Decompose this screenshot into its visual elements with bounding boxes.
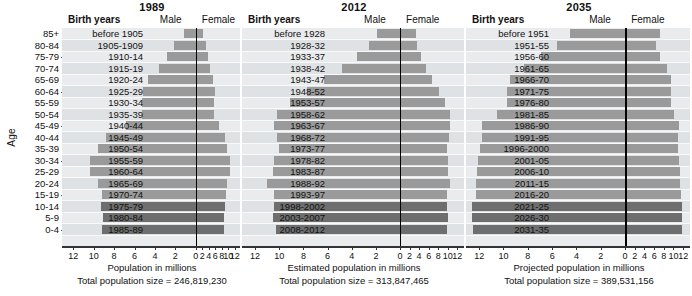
x-tick-label: 12 — [450, 251, 464, 261]
x-tick-label: 2 — [594, 251, 608, 261]
birth-years-label: before 1951 — [466, 28, 549, 40]
bar-female — [625, 121, 679, 130]
x-tick-mark — [352, 246, 353, 250]
bar-female — [625, 202, 682, 211]
age-group-label: 75-79 — [18, 51, 62, 63]
x-tick-mark — [279, 246, 280, 250]
x-tick-mark — [255, 246, 256, 250]
age-group-label: 5-9 — [18, 212, 62, 224]
birth-years-label: 1973-77 — [242, 143, 325, 155]
x-tick-mark — [215, 246, 216, 250]
bar-female — [400, 110, 450, 119]
x-tick-mark — [479, 246, 480, 250]
birth-years-label: 1960-64 — [62, 166, 143, 178]
x-tick-mark — [448, 246, 449, 250]
birth-years-label: 1945-49 — [62, 132, 143, 144]
birth-years-label: 1951-55 — [466, 40, 549, 52]
birth-years-label: 1953-57 — [242, 97, 325, 109]
zero-axis-line — [196, 28, 197, 246]
age-group-label: 85+ — [18, 28, 62, 40]
female-header: Female — [631, 14, 664, 25]
bar-male — [142, 98, 196, 107]
bar-male — [324, 75, 400, 84]
birth-years-header: Birth years — [248, 14, 300, 25]
bar-female — [196, 202, 225, 211]
x-tick-mark — [73, 246, 74, 250]
bar-female — [196, 190, 226, 199]
total-population-label: Total population size = 246,819,230 — [62, 275, 242, 286]
bar-female — [196, 121, 219, 130]
x-tick-mark — [429, 246, 430, 250]
x-tick-mark — [202, 246, 203, 250]
birth-years-label: 1905-1909 — [62, 40, 143, 52]
birth-years-label: 1956-60 — [466, 51, 549, 63]
bar-female — [625, 213, 682, 222]
birth-years-label: 1930-34 — [62, 97, 143, 109]
birth-years-label: 1978-82 — [242, 155, 325, 167]
birth-years-label: 1961-65 — [466, 63, 549, 75]
x-tick-mark — [94, 246, 95, 250]
age-group-label: 55-59 — [18, 97, 62, 109]
panel-header: Birth yearsMaleFemale — [466, 14, 692, 27]
plot-area: before 19511951-551956-601961-651966-701… — [466, 28, 690, 246]
birth-years-label: 1915-19 — [62, 63, 143, 75]
birth-years-label: 2008-2012 — [242, 224, 325, 236]
age-group-label: 10-14 — [18, 201, 62, 213]
x-tick-mark — [196, 246, 197, 250]
age-axis: Age 85+80-8475-7970-7465-6960-6455-5950-… — [0, 28, 62, 246]
bar-male — [541, 52, 625, 61]
birth-years-label: 1976-80 — [466, 97, 549, 109]
x-tick-mark — [635, 246, 636, 250]
bar-female — [625, 64, 667, 73]
birth-years-label: 1910-14 — [62, 51, 143, 63]
birth-years-label: 1975-79 — [62, 201, 143, 213]
birth-years-label: 2016-20 — [466, 189, 549, 201]
x-tick-mark — [303, 246, 304, 250]
birth-years-label: 1980-84 — [62, 212, 143, 224]
x-tick-mark — [410, 246, 411, 250]
bar-female — [625, 29, 660, 38]
bar-male — [342, 64, 400, 73]
x-tick-mark — [673, 246, 674, 250]
birth-years-label: before 1928 — [242, 28, 325, 40]
bar-female — [196, 87, 215, 96]
bar-female — [625, 52, 660, 61]
age-group-label: 30-34 — [18, 155, 62, 167]
x-tick-label: 12 — [228, 251, 242, 261]
bar-male — [184, 29, 196, 38]
age-group-label: 0-4 — [18, 224, 62, 236]
x-tick-mark — [654, 246, 655, 250]
age-group-label: 45-49 — [18, 120, 62, 132]
age-group-label: 35-39 — [18, 143, 62, 155]
bar-male — [167, 52, 196, 61]
x-tick-mark — [175, 246, 176, 250]
birth-years-label: 1933-37 — [242, 51, 325, 63]
age-group-label: 20-24 — [18, 178, 62, 190]
birth-years-label: 1970-74 — [62, 189, 143, 201]
x-tick-label: 8 — [296, 251, 310, 261]
birth-years-label: 1955-59 — [62, 155, 143, 167]
x-tick-mark — [664, 246, 665, 250]
bar-female — [400, 41, 417, 50]
bar-male — [369, 41, 400, 50]
birth-years-header: Birth years — [68, 14, 120, 25]
bar-female — [196, 144, 227, 153]
bar-male — [142, 110, 196, 119]
age-axis-title: Age — [6, 118, 17, 158]
age-group-label: 70-74 — [18, 63, 62, 75]
age-group-label: 65-69 — [18, 74, 62, 86]
age-group-label: 40-44 — [18, 132, 62, 144]
x-tick-label: 12 — [676, 251, 690, 261]
x-tick-mark — [235, 246, 236, 250]
x-tick-mark — [114, 246, 115, 250]
bar-female — [625, 225, 682, 234]
x-tick-label: 2 — [168, 251, 182, 261]
x-tick-label: 10 — [272, 251, 286, 261]
bar-female — [196, 110, 214, 119]
plot-area: before 19051905-19091910-141915-191920-2… — [62, 28, 240, 246]
x-tick-label: 2 — [369, 251, 383, 261]
birth-years-label: 1925-29 — [62, 86, 143, 98]
bar-female — [625, 167, 680, 176]
birth-years-label: 1993-97 — [242, 189, 325, 201]
bar-female — [625, 110, 674, 119]
